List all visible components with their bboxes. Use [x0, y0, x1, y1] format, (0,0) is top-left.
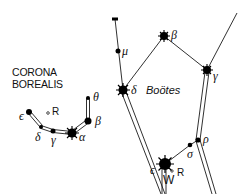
star-bootes-delta [116, 83, 130, 97]
label-bootes-rho: ρ [203, 133, 209, 145]
label-bootes-sigma: σ [187, 148, 193, 160]
corona-borealis-title-line2: BOREALIS [12, 78, 63, 90]
label-crb-epsilon: ϵ [19, 110, 24, 122]
star-crb-alpha [65, 126, 79, 140]
label-bootes-R: R [177, 168, 184, 178]
star-crb-delta [39, 125, 43, 129]
star-bootes-W [171, 170, 173, 172]
star-bootes-top [112, 18, 118, 21]
star-crb-R [47, 112, 50, 115]
star-crb-beta [85, 118, 92, 125]
label-crb-R: R [52, 107, 59, 117]
label-crb-alpha: α [79, 131, 85, 143]
label-crb-delta: δ [35, 131, 41, 143]
corona-borealis-title-line1: CORONA [12, 66, 63, 78]
label-crb-gamma: γ [51, 134, 56, 146]
star-crb-epsilon [26, 109, 32, 115]
label-bootes-W: W [163, 174, 174, 186]
label-bootes-epsilon: ϵ [150, 164, 155, 176]
star-crb-theta [86, 96, 90, 100]
star-bootes-mu [116, 49, 121, 54]
bootes-title: Boötes [146, 85, 180, 96]
label-crb-beta: β [95, 115, 101, 127]
star-bootes-gamma [201, 64, 213, 76]
label-bootes-gamma: γ [213, 70, 218, 82]
corona-borealis-title: CORONA BOREALIS [12, 66, 63, 90]
label-bootes-mu: μ [122, 45, 128, 57]
star-chart [0, 0, 248, 194]
star-bootes-rho [195, 137, 200, 142]
star-bootes-beta [158, 30, 170, 42]
label-bootes-delta: δ [131, 84, 137, 96]
label-crb-theta: θ [93, 91, 99, 103]
label-bootes-beta: β [171, 29, 177, 41]
